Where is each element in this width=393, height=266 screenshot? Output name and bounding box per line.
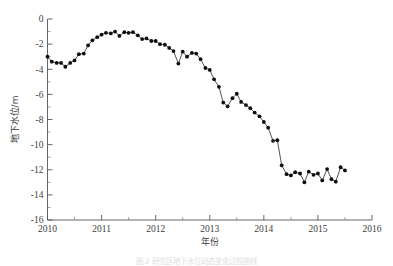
data-point-marker: [163, 43, 167, 47]
data-point-marker: [59, 61, 63, 65]
x-tick-label: 2011: [92, 224, 111, 234]
data-point-marker: [221, 101, 225, 105]
data-point-marker: [266, 126, 270, 130]
data-point-marker: [50, 60, 54, 64]
x-axis-title: 年份: [201, 236, 219, 247]
data-point-marker: [154, 39, 158, 43]
data-point-marker: [118, 34, 122, 38]
data-point-marker: [275, 138, 279, 142]
data-point-marker: [217, 85, 221, 89]
data-point-marker: [73, 59, 77, 63]
data-point-marker: [307, 170, 311, 174]
data-point-marker: [339, 165, 343, 169]
x-tick-label: 2013: [200, 224, 219, 234]
y-tick-label: -6: [36, 90, 44, 100]
data-point-marker: [248, 106, 252, 110]
data-point-marker: [127, 31, 131, 35]
data-point-marker: [176, 62, 180, 66]
data-point-marker: [185, 55, 189, 59]
data-point-marker: [104, 31, 108, 35]
y-tick-label: -8: [36, 115, 44, 125]
data-point-marker: [86, 43, 90, 47]
data-point-marker: [343, 168, 347, 172]
data-point-marker: [181, 50, 185, 54]
data-point-marker: [231, 96, 235, 100]
data-point-marker: [235, 92, 239, 96]
data-point-marker: [285, 172, 289, 176]
data-point-marker: [46, 55, 50, 59]
figure-caption: 图 2 研究区地下水位动态变化过程曲线: [0, 257, 393, 266]
data-point-marker: [113, 30, 117, 34]
data-point-marker: [258, 114, 262, 118]
data-point-marker: [316, 172, 320, 176]
data-point-marker: [298, 172, 302, 176]
data-point-marker: [136, 33, 140, 37]
data-point-marker: [95, 35, 99, 39]
data-point-marker: [271, 139, 275, 143]
y-tick-label: -2: [36, 39, 44, 49]
data-point-marker: [212, 77, 216, 81]
data-point-marker: [68, 61, 72, 65]
data-point-marker: [244, 103, 248, 107]
data-point-marker: [334, 180, 338, 184]
data-point-marker: [320, 179, 324, 183]
data-point-marker: [167, 46, 171, 50]
tick-labels-group: 20102011201220132014201520160-2-4-6-8-10…: [31, 14, 382, 233]
y-tick-label: -12: [31, 165, 44, 175]
data-point-marker: [100, 33, 104, 37]
ticks-group: [48, 19, 373, 220]
y-tick-label: -10: [31, 140, 44, 150]
data-point-marker: [312, 173, 316, 177]
x-tick-label: 2016: [363, 224, 382, 234]
y-tick-label: -4: [36, 65, 44, 75]
data-point-marker: [253, 111, 257, 115]
data-point-marker: [208, 68, 212, 72]
data-point-marker: [199, 57, 203, 61]
data-point-marker: [325, 167, 329, 171]
data-markers-group: [46, 30, 347, 185]
data-point-marker: [289, 174, 293, 178]
data-point-marker: [63, 65, 67, 69]
data-point-marker: [149, 39, 153, 43]
data-point-marker: [172, 49, 176, 53]
data-point-marker: [262, 120, 266, 124]
data-point-marker: [194, 52, 198, 56]
data-point-marker: [140, 37, 144, 41]
data-point-marker: [293, 170, 297, 174]
data-point-marker: [82, 52, 86, 56]
data-point-marker: [190, 51, 194, 55]
groundwater-level-chart-figure: 20102011201220132014201520160-2-4-6-8-10…: [0, 0, 393, 266]
y-tick-label: -16: [31, 215, 44, 225]
x-tick-label: 2015: [308, 224, 327, 234]
data-point-marker: [280, 163, 284, 167]
y-tick-label: 0: [39, 14, 44, 24]
data-point-marker: [90, 38, 94, 42]
data-point-marker: [131, 30, 135, 34]
chart-canvas: 20102011201220132014201520160-2-4-6-8-10…: [0, 0, 393, 266]
x-tick-label: 2012: [146, 224, 165, 234]
data-point-marker: [303, 180, 307, 184]
data-point-marker: [55, 61, 59, 65]
x-tick-label: 2014: [254, 224, 273, 234]
data-point-marker: [204, 66, 208, 70]
y-tick-label: -14: [31, 190, 44, 200]
y-axis-title: 地下水位/m: [9, 96, 20, 144]
axes-group: [48, 19, 373, 220]
data-point-marker: [145, 37, 149, 41]
data-point-marker: [226, 104, 230, 108]
data-point-marker: [77, 52, 81, 56]
data-point-marker: [239, 100, 243, 104]
data-point-marker: [330, 177, 334, 181]
data-point-marker: [122, 30, 126, 34]
data-point-marker: [158, 42, 162, 46]
data-point-marker: [109, 32, 113, 36]
